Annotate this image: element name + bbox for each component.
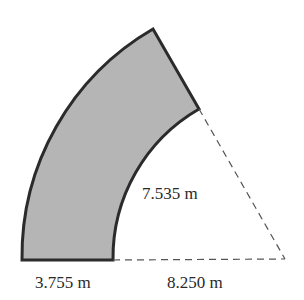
dashed-radius-slant [199, 109, 285, 259]
inner-radius-label: 8.250 m [167, 273, 223, 292]
dashed-radius-bottom [113, 259, 285, 260]
shaded-sector [22, 29, 199, 260]
inner-arc-label: 7.535 m [142, 184, 198, 203]
width-label: 3.755 m [35, 273, 91, 292]
diagram-canvas: 7.535 m 3.755 m 8.250 m [0, 0, 304, 300]
